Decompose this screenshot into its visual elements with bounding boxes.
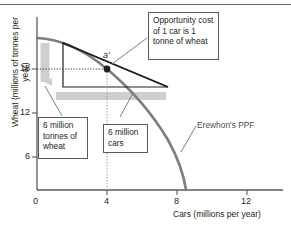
- ppf-plot-canvas: [0, 0, 291, 228]
- x-tick-12: 12: [241, 196, 251, 206]
- x-axis-title: Cars (millions per year): [173, 209, 261, 219]
- callout-wheat-drop: 6 million tonnes of wheat: [38, 117, 88, 159]
- callout-cars-gain: 6 million cars: [103, 124, 148, 153]
- point-a-prime-marker: [104, 66, 111, 73]
- x-tick-8: 8: [174, 196, 179, 206]
- x-tick-4: 4: [104, 196, 109, 206]
- ppf-figure: 18 12 6 0 4 8 12 Wheat (millions of tonn…: [0, 0, 291, 228]
- y-tick-6: 6: [25, 151, 30, 161]
- x-tick-0: 0: [33, 196, 38, 206]
- ppf-curve-label: Erewhon's PPF: [197, 120, 254, 130]
- point-a-prime-label: a': [103, 50, 110, 60]
- y-axis-title: Wheat (millions of tonnes per year): [10, 10, 30, 134]
- ppf-curve: [37, 38, 186, 190]
- callout-opportunity-cost: Opportunity cost of 1 car is 1 tonne of …: [148, 12, 219, 60]
